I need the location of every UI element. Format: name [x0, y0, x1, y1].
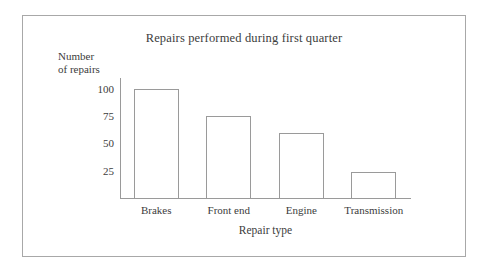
- bar: [134, 89, 179, 198]
- y-axis-tick-labels: 255075100: [78, 78, 114, 198]
- plot-area: [120, 78, 410, 198]
- chart-figure: Repairs performed during first quarter N…: [0, 0, 487, 276]
- x-axis-line: [120, 198, 411, 199]
- bar: [351, 172, 396, 198]
- bar: [206, 116, 251, 198]
- x-axis-title: Repair type: [120, 223, 411, 237]
- y-axis-title-line-1: Number: [58, 50, 100, 63]
- y-axis-title-line-2: of repairs: [58, 63, 100, 76]
- x-axis-tick-label: Brakes: [141, 203, 172, 217]
- y-axis-tick-label: 50: [78, 138, 114, 149]
- x-axis-tick-labels: BrakesFront endEngineTransmission: [120, 203, 411, 219]
- x-axis-tick-label: Transmission: [344, 203, 403, 217]
- x-axis-tick-label: Front end: [208, 203, 250, 217]
- y-axis-tick-label: 75: [78, 111, 114, 122]
- y-axis-title: Number of repairs: [58, 50, 100, 76]
- bar: [279, 133, 324, 198]
- chart-title: Repairs performed during first quarter: [22, 31, 466, 46]
- y-axis-tick-label: 25: [78, 165, 114, 176]
- x-axis-tick-label: Engine: [286, 203, 317, 217]
- y-axis-tick-label: 100: [78, 83, 114, 94]
